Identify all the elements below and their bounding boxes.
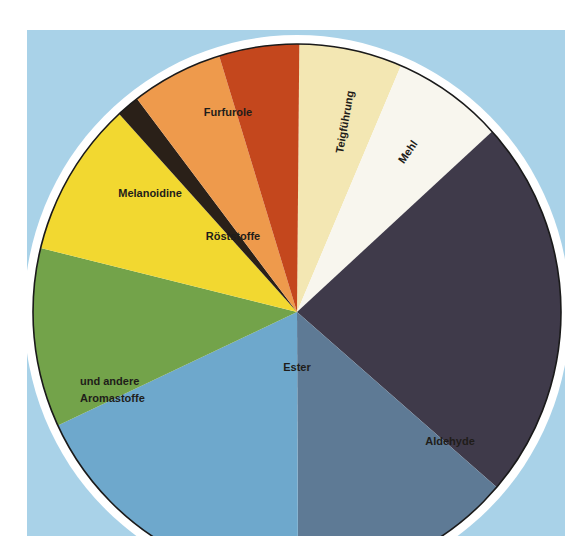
- label-roeststoffe: Röststoffe: [206, 230, 260, 243]
- label-aromastoffe: Aromastoffe: [80, 392, 145, 405]
- label-ester: Ester: [283, 361, 311, 374]
- label-und-andere: und andere: [80, 375, 139, 388]
- label-melanoidine: Melanoidine: [118, 187, 182, 200]
- label-aldehyde: Aldehyde: [425, 435, 475, 448]
- label-furfurole: Furfurole: [204, 106, 252, 119]
- pie-chart: [27, 30, 565, 536]
- chart-background-panel: [27, 30, 565, 536]
